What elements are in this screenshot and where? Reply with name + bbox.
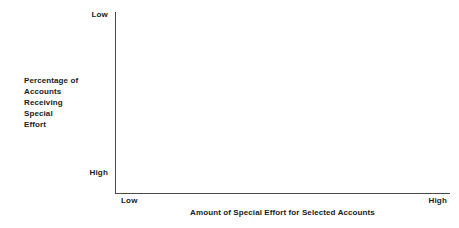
plot-area <box>116 12 450 193</box>
y-axis-title-line: Accounts <box>24 86 112 97</box>
y-axis-title-line: Effort <box>24 119 112 130</box>
x-axis-tick-right: High <box>428 196 447 206</box>
y-axis-title: Percentage of Accounts Receiving Special… <box>24 75 112 130</box>
y-axis-line <box>115 12 116 194</box>
x-axis-tick-left: Low <box>121 196 138 206</box>
y-axis-title-line: Percentage of <box>24 75 112 86</box>
y-axis-tick-bottom: High <box>89 168 108 178</box>
y-axis-tick-top: Low <box>91 10 108 20</box>
x-axis-line <box>115 193 450 194</box>
chart-figure: Low High Low High Percentage of Accounts… <box>0 0 459 228</box>
y-axis-title-line: Receiving <box>24 97 112 108</box>
x-axis-title: Amount of Special Effort for Selected Ac… <box>115 208 450 218</box>
y-axis-title-line: Special <box>24 108 112 119</box>
